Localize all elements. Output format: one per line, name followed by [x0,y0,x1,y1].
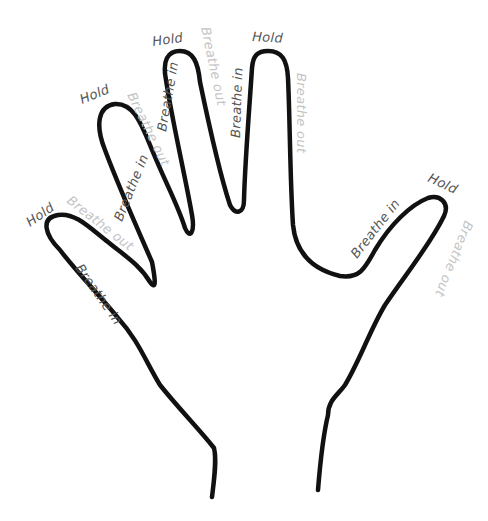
pinky-hold-label: Hold [23,199,57,229]
index-breathe-in-label: Breathe in [228,67,245,138]
pinky-breathe-in-label: Breathe in [73,261,126,327]
hand-outline [46,51,445,497]
middle-breathe-in-label: Breathe in [154,60,181,132]
middle-hold-label: Hold [151,30,184,49]
thumb-hold-label: Hold [426,170,461,197]
index-breathe-out-label: Breathe out [294,73,309,154]
ring-hold-label: Hold [78,81,113,107]
hand-breathing-diagram: Breathe in Hold Breathe out Breathe in H… [0,0,488,521]
index-hold-label: Hold [252,29,284,46]
thumb-breathe-out-label: Breathe out [432,219,476,300]
